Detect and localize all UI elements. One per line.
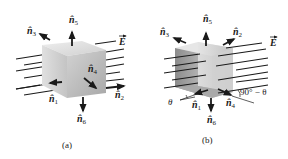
n6-label-a: n̂6 xyxy=(77,113,87,126)
caption-b: (b) xyxy=(202,135,213,145)
n3-label-b: n̂3 xyxy=(160,26,170,39)
n1-arrow-a xyxy=(50,82,62,83)
n2-arrow-b xyxy=(223,39,234,45)
n2-arrow-a xyxy=(106,86,124,88)
n1-label-b: n̂1 xyxy=(192,99,202,112)
n3-label-a: n̂3 xyxy=(27,25,37,38)
n3-arrow-b xyxy=(174,38,186,43)
n2-label-a: n̂2 xyxy=(115,89,125,102)
caption-a: (a) xyxy=(62,140,72,150)
figure-b: n̂5 n̂3 n̂2 n̂1 n̂4 n̂6 E θ 90° − θ (b) xyxy=(160,13,277,145)
field-e-label-a: E xyxy=(118,36,126,47)
n5-label-b: n̂5 xyxy=(203,13,213,26)
field-e-label-b: E xyxy=(269,37,277,48)
figure-a: n̂5 n̂3 n̂4 n̂1 n̂2 n̂6 E (a) xyxy=(16,14,126,150)
n1-label-a: n̂1 xyxy=(49,93,59,106)
n2-label-b: n̂2 xyxy=(233,26,243,39)
n6-label-b: n̂6 xyxy=(207,114,217,127)
n3-arrow-a xyxy=(40,34,50,40)
gauss-law-cube-diagram: n̂5 n̂3 n̂4 n̂1 n̂2 n̂6 E (a) xyxy=(0,0,288,159)
n5-label-a: n̂5 xyxy=(69,14,79,27)
theta-label: θ xyxy=(168,97,173,107)
complement-angle-label: 90° − θ xyxy=(240,87,267,97)
n4-label-b: n̂4 xyxy=(226,97,236,110)
